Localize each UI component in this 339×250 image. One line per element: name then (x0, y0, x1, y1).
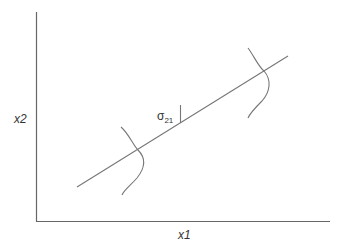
y-axis-label: x2 (14, 113, 27, 125)
sigma-label: σ21 (157, 110, 173, 125)
right-distribution-curve (248, 48, 269, 118)
diagram-canvas (0, 0, 339, 250)
left-distribution-curve (121, 127, 144, 195)
regression-line (77, 56, 288, 187)
x-axis-label: x1 (178, 229, 191, 241)
sigma-subscript: 21 (164, 116, 173, 125)
